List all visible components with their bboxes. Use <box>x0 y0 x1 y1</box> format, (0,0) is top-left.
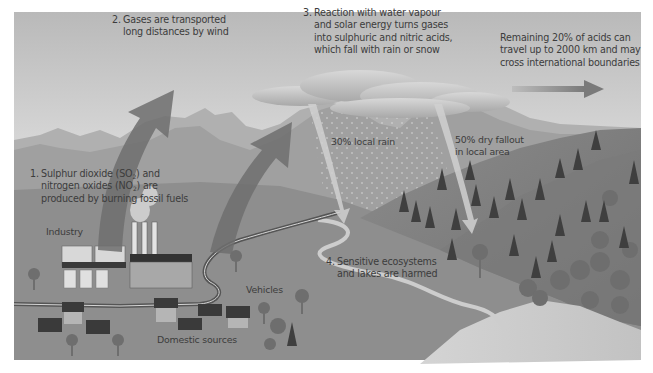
remaining-acids-label: Remaining 20% of acids can travel up to … <box>500 32 641 69</box>
step-1-label: 1.Sulphur dioxide (SO2) and nitrogen oxi… <box>30 168 188 205</box>
dry-fallout-label: 50% dry fallout in local area <box>455 134 524 159</box>
vehicles-label: Vehicles <box>246 284 283 296</box>
step-4-label: 4.Sensitive ecosystems and lakes are har… <box>326 256 437 281</box>
industry-label: Industry <box>46 226 83 238</box>
local-rain-label: 30% local rain <box>331 136 395 148</box>
step-3-label: 3.Reaction with water vapour and solar e… <box>303 7 452 57</box>
domestic-sources-label: Domestic sources <box>157 334 237 346</box>
step-2-label: 2.Gases are transported long distances b… <box>112 14 229 39</box>
